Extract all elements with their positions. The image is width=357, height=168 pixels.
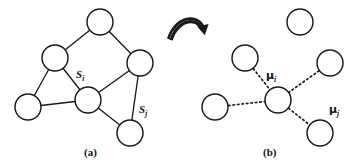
label-s-j: Sj (139, 104, 147, 118)
caption-panel-a: (a) (84, 147, 97, 158)
label-mu-i: μi (266, 70, 276, 84)
node-center-si[interactable] (75, 87, 101, 113)
node-b-upper-left[interactable] (232, 45, 258, 71)
node-top[interactable] (87, 9, 113, 35)
label-mu-j-sub: j (337, 109, 339, 118)
node-right[interactable] (127, 50, 153, 76)
node-b-right[interactable] (317, 50, 343, 76)
label-mu-j: μj (329, 104, 339, 118)
node-center-mu-i[interactable] (265, 87, 291, 113)
caption-panel-b: (b) (263, 147, 276, 158)
label-s-i-sub: i (82, 74, 84, 83)
label-mu-i-base: μ (266, 69, 274, 82)
node-b-left[interactable] (202, 94, 228, 120)
label-mu-j-base: μ (329, 103, 337, 116)
node-isolated[interactable] (287, 9, 313, 35)
node-bottom-left[interactable] (15, 94, 41, 120)
figure-container: Si Sj μi μj (a) (b) (0, 0, 357, 168)
label-mu-i-sub: i (274, 75, 276, 84)
curved-right-arrow-icon (167, 17, 209, 40)
node-upper-left[interactable] (42, 45, 68, 71)
label-s-j-sub: j (145, 109, 147, 118)
label-s-i: Si (76, 69, 84, 83)
node-bottom-right-sj[interactable] (117, 120, 143, 146)
figure-canvas (0, 0, 357, 168)
node-bottom-right-mu-j[interactable] (307, 120, 333, 146)
